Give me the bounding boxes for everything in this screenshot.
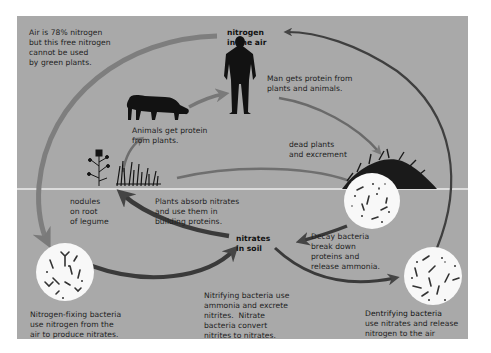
arrow-animals-to-man <box>189 94 224 107</box>
man-protein-note: Man gets protein from plants and animals… <box>267 74 352 94</box>
cow-silhouette <box>127 95 189 120</box>
nitrifying-note: Nitrifying bacteria use ammonia and excr… <box>204 291 289 339</box>
animals-protein-note: Animals get protein from plants. <box>132 126 207 146</box>
arrow-fixing-bacteria-to-nitrates <box>92 250 234 277</box>
plants-absorb-note: Plants absorb nitrates and use them in b… <box>155 197 239 227</box>
denitrifying-bacteria-circle <box>404 247 462 305</box>
node-nitrogen-in-air: nitrogen in the air <box>227 28 266 48</box>
nitrogen-cycle-diagram: Air is 78% nitrogen but this free nitrog… <box>17 16 468 339</box>
legume-plant <box>88 150 110 186</box>
denitrifying-title: Dentrifying bacteria <box>365 309 442 319</box>
nitrogen-fixing-bacteria-circle <box>36 243 94 301</box>
decay-bacteria-circle <box>344 173 400 229</box>
legume-nodules-label: nodules on root of legume <box>70 197 109 227</box>
denitrifying-note: use nitrates and release nitrogen to the… <box>365 319 458 339</box>
air-composition-note: Air is 78% nitrogen but this free nitrog… <box>29 28 111 68</box>
node-nitrates-in-soil: nitrates in soil <box>236 234 270 254</box>
arrow-plants-to-dead-matter <box>177 169 357 184</box>
decay-bacteria-note: Decay bacteria break down proteins and r… <box>311 232 380 272</box>
grass-plants <box>116 161 161 186</box>
nitrogen-fixing-note: Nitrogen-fixing bacteria use nitrogen fr… <box>30 310 121 339</box>
dead-matter-label: dead plants and excrement <box>289 140 347 160</box>
